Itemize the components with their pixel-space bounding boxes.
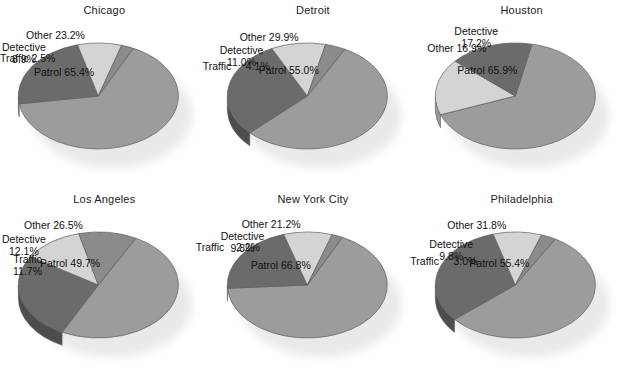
slice-label-patrol: Patrol 49.7% (40, 257, 100, 269)
pie-chart (0, 189, 209, 378)
slice-label-traffic: Traffic 2.5% (0, 52, 55, 64)
slice-label-other: Other 21.2% (242, 218, 301, 230)
slice-label-traffic: Traffic 2.2% (196, 241, 260, 253)
pie-panel-philadelphia: PhiladelphiaPatrol 55.4%Other 31.8%Detec… (417, 189, 626, 378)
slice-label-patrol: Patrol 65.4% (34, 66, 94, 78)
pie-chart (417, 0, 626, 189)
slice-label-other: Other 26.5% (24, 219, 83, 231)
slice-label-traffic: Traffic 11.7% (13, 253, 42, 277)
slice-label-patrol: Patrol 65.9% (457, 64, 517, 76)
pie-chart (209, 0, 418, 189)
pie-panel-los-angeles: Los AngelesPatrol 49.7%Other 26.5%Detect… (0, 189, 209, 378)
pie-panel-new-york-city: New York CityPatrol 66.8%Other 21.2%Dete… (209, 189, 418, 378)
pie-chart (417, 189, 626, 378)
slice-label-other: Other 16.9% (427, 42, 486, 54)
slice-label-other: Other 29.9% (240, 31, 299, 43)
slice-label-patrol: Patrol 66.8% (251, 259, 311, 271)
pie-panel-chicago: ChicagoPatrol 65.4%Other 23.2%Detective … (0, 0, 209, 189)
pie-panel-detroit: DetroitPatrol 55.0%Other 29.9%Detective … (209, 0, 418, 189)
slice-label-traffic: Traffic 3.0% (410, 255, 477, 267)
pie-slices (436, 43, 596, 149)
pie-chart-grid: ChicagoPatrol 65.4%Other 23.2%Detective … (0, 0, 626, 378)
slice-label-other: Other 23.2% (26, 29, 85, 41)
slice-label-traffic: Traffic 4.1% (203, 60, 270, 72)
slice-label-other: Other 31.8% (447, 219, 506, 231)
pie-chart (209, 189, 418, 378)
pie-panel-houston: HoustonPatrol 65.9%Detective 17.2%Other … (417, 0, 626, 189)
slice-label-patrol: Patrol 55.4% (469, 257, 529, 269)
